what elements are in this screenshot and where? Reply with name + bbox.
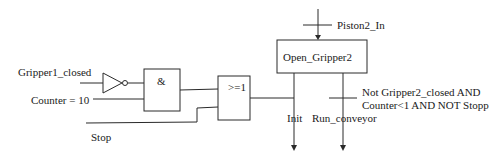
- diagram-canvas: [0, 0, 502, 165]
- arrow-down-icon: [340, 145, 346, 151]
- arrow-down-icon: [315, 35, 321, 40]
- inverter-bubble-icon: [123, 81, 128, 86]
- and-gate-symbol: &: [157, 75, 166, 87]
- run-conveyor-label: Run_conveyor: [312, 112, 377, 124]
- not-gate-icon: [103, 73, 122, 93]
- gripper1-closed-label: Gripper1_closed: [18, 66, 91, 78]
- or-gate-symbol: >=1: [228, 81, 246, 93]
- init-label: Init: [287, 112, 302, 124]
- and-to-or-line: [180, 89, 218, 90]
- stop-label: Stop: [91, 131, 111, 143]
- transition-condition-line1: Not Gripper2_closed AND: [362, 86, 481, 98]
- counter-label: Counter = 10: [31, 94, 89, 106]
- step-label: Open_Gripper2: [283, 51, 352, 63]
- piston2-in-label: Piston2_In: [337, 19, 385, 31]
- transition-condition-line2: Counter<1 AND NOT Stopp: [362, 99, 489, 111]
- arrow-down-icon: [291, 145, 297, 151]
